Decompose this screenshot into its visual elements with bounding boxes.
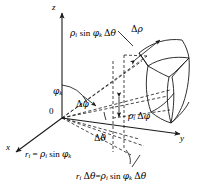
phi-glyph: φ [83, 99, 89, 109]
solid-top-face [139, 40, 189, 66]
index-k: k [59, 89, 62, 96]
sin-text: sin [49, 149, 60, 159]
index-i: i [80, 174, 82, 181]
index-k: k [129, 174, 132, 181]
solid-outer-face [171, 58, 189, 123]
ray-upper-outer [62, 56, 147, 118]
origin-label: 0 [49, 107, 54, 116]
label-rho-delta-phi: ρi Δφ [128, 112, 150, 122]
theta-glyph: θ [141, 171, 146, 181]
label-delta-rho: Δρ [131, 25, 143, 34]
index-i: i [106, 174, 108, 181]
leader-rho-sin [118, 31, 127, 40]
delta-phi-arc [104, 112, 106, 120]
index-i: i [133, 114, 135, 121]
x-axis [16, 118, 62, 152]
theta-glyph: θ [101, 133, 106, 143]
bottom-theta-arc [126, 150, 130, 164]
y-axis-label: y [180, 134, 184, 143]
x-axis-label: x [6, 143, 10, 152]
solid-bottom-edge [151, 93, 174, 112]
measure-arrows [83, 31, 160, 167]
index-i: i [45, 152, 47, 159]
phi-glyph: φ [144, 111, 150, 121]
label-r-delta-theta-equals: ri Δθ=ρi sin φk Δθ [76, 172, 146, 182]
equals-sign: = [33, 149, 38, 159]
spherical-coordinates-figure: z y x 0 ρi sin φk Δθ Δρ φk Δφ ρi Δφ Δθ r… [0, 0, 206, 191]
rho-glyph: ρ [138, 24, 143, 34]
z-axis-label: z [52, 3, 56, 12]
delta-rho-arrow [135, 40, 160, 60]
label-delta-theta: Δθ [94, 134, 106, 143]
sin-text: sin [110, 171, 121, 181]
y-axis [62, 118, 180, 134]
dash-to-solid-a [124, 55, 147, 56]
index-k: k [68, 152, 71, 159]
label-delta-phi: Δφ [76, 100, 89, 109]
solid-front-left-edge [139, 53, 148, 66]
theta-glyph: θ [111, 28, 116, 38]
arc-annotations [62, 85, 130, 164]
index-i: i [29, 152, 31, 159]
leader-to-bottom-label [132, 155, 140, 167]
label-rho-sin-phi-delta-theta: ρi sin φk Δθ [70, 29, 116, 39]
label-r-equals-rho-sin-phi: ri = ρi sin φk [25, 150, 71, 160]
label-phi-k: φk [53, 87, 62, 97]
index-k: k [99, 31, 102, 38]
solid-inner-rib-1 [169, 58, 189, 77]
sin-text: sin [80, 28, 91, 38]
projection-dashes [113, 55, 170, 152]
